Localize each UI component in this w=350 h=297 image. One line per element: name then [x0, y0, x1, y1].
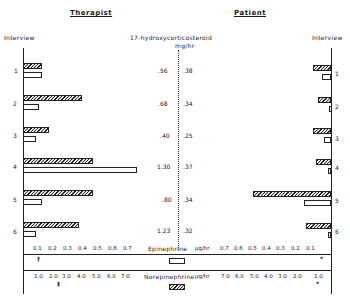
patient-epi-bar-2	[329, 106, 332, 112]
epi-tick-left-7: 0.7	[123, 245, 132, 251]
epi-tick-left-1: 0.1	[33, 245, 42, 251]
interview-label-right: Interview	[312, 34, 343, 41]
epi-tick-left-3: 0.3	[63, 245, 72, 251]
epi-tick-right-5: 0.3	[276, 245, 285, 251]
steroid-therapist-6: 1.23	[157, 227, 170, 234]
steroid-therapist-3: .40	[160, 132, 170, 139]
norepi-tick-left-6: 6.0	[107, 273, 116, 279]
patient-norepi-bar-6	[306, 223, 331, 229]
therapist-epi-bar-6	[23, 231, 36, 237]
interview-6-left: 6	[13, 228, 17, 235]
interview-label-left: Interview	[4, 34, 35, 41]
epi-tick-left-5: 0.5	[93, 245, 102, 251]
steroid-therapist-1: .56	[158, 67, 168, 74]
marker-left-epi: †	[37, 255, 40, 262]
marker-right-norepi: *	[316, 280, 319, 287]
norepi-tick-right-1: 7.0	[221, 273, 230, 279]
patient-epi-bar-5	[304, 200, 331, 206]
norepi-tick-right-6: 2.0	[293, 273, 302, 279]
legend-norepinephrine-swatch	[169, 284, 185, 290]
therapist-epi-bar-4	[23, 167, 137, 173]
epi-tick-left-6: 0.6	[108, 245, 117, 251]
therapist-norepi-bar-1	[23, 63, 42, 69]
steroid-therapist-5: .80	[162, 196, 172, 203]
interview-1-right: 1	[335, 70, 339, 77]
norepi-tick-right-7: 1.0	[314, 273, 323, 279]
norepi-unit-label: µg/hr	[195, 273, 210, 279]
steroid-patient-4: .37	[183, 163, 193, 170]
epi-axis-label: Epinephrine	[148, 245, 187, 252]
norepi-tick-left-2: 2.0	[49, 273, 58, 279]
therapist-epi-bar-5	[23, 199, 42, 205]
norepi-tick-right-5: 3.0	[278, 273, 287, 279]
steroid-patient-1: .38	[183, 67, 193, 74]
patient-norepi-bar-5	[253, 191, 331, 197]
marker-left-norepi: ‡	[57, 280, 60, 287]
epi-tick-right-7: 0.1	[306, 245, 315, 251]
epi-tick-right-4: 0.4	[262, 245, 271, 251]
steroid-patient-3: .25	[183, 132, 193, 139]
patient-norepi-bar-3	[313, 128, 331, 134]
steroid-patient-5: .34	[183, 196, 193, 203]
interview-3-right: 3	[335, 135, 339, 142]
norepi-tick-left-3: 3.0	[62, 273, 71, 279]
interview-6-right: 6	[335, 228, 339, 235]
norepi-tick-left-4: 4.0	[77, 273, 86, 279]
norepi-tick-left-7: 7.0	[121, 273, 130, 279]
steroid-patient-6: .32	[183, 227, 193, 234]
center-divider	[178, 50, 179, 250]
interview-1-left: 1	[14, 67, 18, 74]
interview-3-left: 3	[13, 132, 17, 139]
norepi-axis-line	[23, 270, 332, 271]
therapist-epi-bar-1	[23, 72, 42, 78]
epi-tick-right-1: 0.7	[220, 245, 229, 251]
interview-5-left: 5	[13, 196, 17, 203]
therapist-title: Therapist	[70, 9, 112, 17]
legend-epinephrine-swatch	[169, 258, 185, 264]
norepi-tick-right-4: 4.0	[264, 273, 273, 279]
norepi-tick-right-3: 5.0	[250, 273, 259, 279]
therapist-norepi-bar-4	[23, 158, 93, 164]
patient-norepi-bar-2	[318, 97, 331, 103]
norepi-axis-label: Norepinephrine	[144, 273, 195, 280]
patient-norepi-bar-4	[316, 159, 331, 165]
interview-2-left: 2	[13, 100, 17, 107]
epi-unit-label: µg/hr	[195, 245, 210, 251]
norepi-tick-right-2: 6.0	[235, 273, 244, 279]
epi-tick-left-2: 0.2	[48, 245, 57, 251]
therapist-norepi-bar-5	[23, 190, 93, 196]
therapist-norepi-bar-3	[23, 127, 49, 133]
marker-right-epi: *	[320, 255, 323, 262]
norepi-tick-left-5: 5.0	[92, 273, 101, 279]
epi-tick-left-4: 0.4	[78, 245, 87, 251]
steroid-therapist-2: .68	[158, 100, 168, 107]
steroid-therapist-4: 1.30	[157, 163, 170, 170]
epi-tick-right-3: 0.5	[248, 245, 257, 251]
therapist-epi-bar-3	[23, 136, 36, 142]
epi-axis-line	[23, 254, 332, 255]
steroid-unit: mg/hr	[175, 42, 194, 49]
interview-4-right: 4	[335, 164, 339, 171]
interview-4-left: 4	[13, 163, 17, 170]
steroid-label: 17-hydroxycorticosteroid	[130, 34, 212, 41]
norepi-tick-left-1: 1.0	[34, 273, 43, 279]
therapist-norepi-bar-2	[23, 95, 82, 101]
patient-norepi-bar-1	[313, 65, 331, 71]
interview-5-right: 5	[335, 197, 339, 204]
patient-title: Patient	[234, 9, 266, 17]
epi-tick-right-6: 0.2	[291, 245, 300, 251]
epi-tick-right-2: 0.6	[234, 245, 243, 251]
therapist-norepi-bar-6	[23, 222, 79, 228]
therapist-epi-bar-2	[23, 104, 39, 110]
patient-epi-bar-1	[322, 74, 331, 80]
patient-epi-bar-3	[324, 137, 331, 143]
patient-epi-bar-4	[328, 168, 331, 174]
patient-epi-bar-6	[328, 232, 331, 238]
interview-2-right: 2	[335, 103, 339, 110]
steroid-patient-2: .34	[183, 100, 193, 107]
right-axis	[331, 48, 332, 294]
